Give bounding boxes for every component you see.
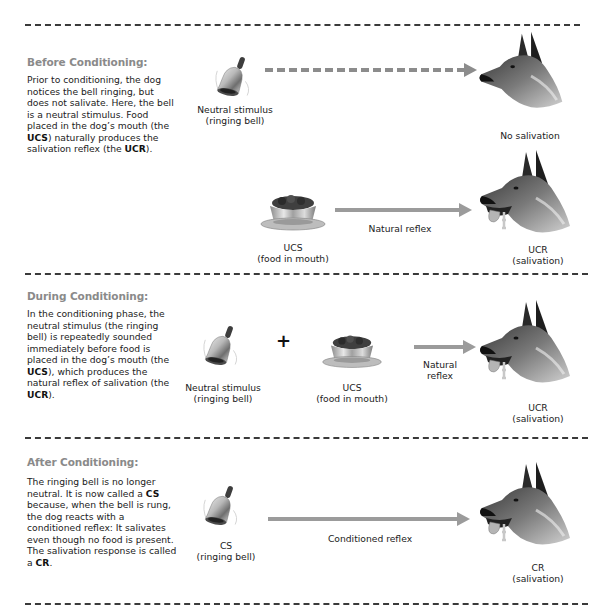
- section-description: Prior to conditioning, the dog notices t…: [27, 74, 177, 155]
- bell-icon: [200, 324, 244, 368]
- response-caption: CR (salivation): [498, 562, 578, 584]
- response-caption: No salivation: [490, 130, 570, 141]
- food-bowl-icon: [258, 192, 328, 232]
- section-description: The ringing bell is no longer neutral. I…: [27, 476, 177, 568]
- dog-head-salivating-icon: [474, 148, 574, 248]
- stimulus-caption: Neutral stimulus (ringing bell): [178, 382, 268, 404]
- dashed-arrow: [265, 68, 465, 72]
- section-divider: [25, 273, 588, 275]
- section-title: Before Conditioning:: [27, 56, 147, 68]
- stimulus-caption: Neutral stimulus (ringing bell): [190, 104, 280, 126]
- natural-reflex-arrow: [335, 208, 460, 212]
- section-divider: [25, 437, 588, 439]
- plus-operator: +: [276, 330, 291, 351]
- section-title: After Conditioning:: [27, 456, 138, 468]
- section-description: In the conditioning phase, the neutral s…: [27, 308, 177, 400]
- dog-head-salivating-icon: [474, 298, 574, 398]
- natural-reflex-arrow: [414, 345, 464, 349]
- arrow-label: Natural reflex: [405, 359, 475, 381]
- bottom-divider: [25, 603, 588, 605]
- arrow-label: Natural reflex: [340, 223, 460, 234]
- bell-icon: [212, 55, 256, 99]
- bell-icon: [200, 484, 244, 528]
- response-caption: UCR (salivation): [498, 402, 578, 424]
- dog-head-salivating-icon: [474, 460, 574, 560]
- stimulus-caption: UCS (food in mouth): [307, 382, 397, 404]
- dog-head-icon: [470, 30, 570, 122]
- top-divider: [25, 24, 580, 26]
- stimulus-caption: CS (ringing bell): [186, 540, 266, 562]
- stimulus-caption: UCS (food in mouth): [248, 242, 338, 264]
- section-title: During Conditioning:: [27, 290, 148, 302]
- response-caption: UCR (salivation): [498, 244, 578, 266]
- conditioned-reflex-arrow: [268, 517, 458, 521]
- food-bowl-icon: [320, 332, 384, 370]
- arrow-label: Conditioned reflex: [300, 533, 440, 544]
